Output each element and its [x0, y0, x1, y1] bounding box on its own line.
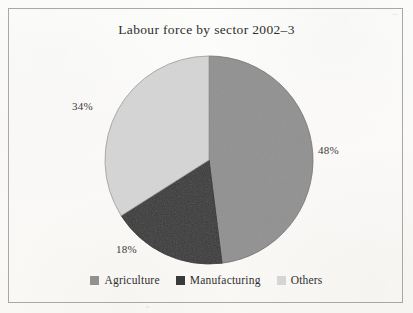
legend-label-others: Others: [291, 274, 323, 286]
legend-swatch-icon-agriculture: [90, 276, 99, 285]
legend-label-agriculture: Agriculture: [104, 274, 159, 286]
pie-label-manufacturing: 18%: [116, 243, 137, 255]
legend-swatch-icon-others: [277, 276, 286, 285]
scan-artifact: [146, 306, 149, 308]
pie-label-others: 34%: [72, 100, 93, 112]
legend-item-agriculture: Agriculture: [90, 274, 159, 286]
chart-frame-border: [8, 8, 403, 303]
legend-item-others: Others: [277, 274, 323, 286]
chart-legend: Agriculture Manufacturing Others: [0, 274, 413, 286]
legend-item-manufacturing: Manufacturing: [176, 274, 261, 286]
pie-label-agriculture: 48%: [318, 144, 339, 156]
chart-page: Labour force by sector 2002–3: [0, 0, 413, 313]
legend-label-manufacturing: Manufacturing: [190, 274, 261, 286]
chart-title: Labour force by sector 2002–3: [0, 22, 413, 38]
legend-swatch-icon-manufacturing: [176, 276, 185, 285]
